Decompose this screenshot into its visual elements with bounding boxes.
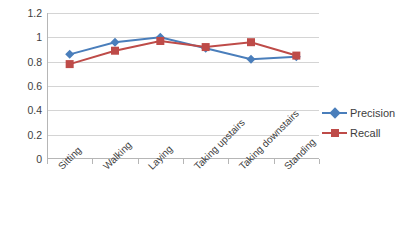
y-axis: 00.20.40.60.811.2 xyxy=(0,13,42,159)
line-chart: 00.20.40.60.811.2 SittingWalkingLayingTa… xyxy=(0,0,399,246)
series-line xyxy=(70,37,297,59)
data-point xyxy=(66,60,74,68)
legend-label: Recall xyxy=(350,127,381,139)
legend-item-precision[interactable]: Precision xyxy=(322,104,395,121)
legend-label: Precision xyxy=(350,107,395,119)
y-axis-tick-label: 1.2 xyxy=(27,7,42,19)
data-point xyxy=(156,37,164,45)
data-point xyxy=(65,50,74,59)
data-point xyxy=(247,38,255,46)
legend: PrecisionRecall xyxy=(322,104,395,144)
data-point xyxy=(292,52,300,60)
legend-swatch-icon xyxy=(322,127,347,139)
data-point xyxy=(202,43,210,51)
y-axis-tick-label: 0.6 xyxy=(27,80,42,92)
data-point xyxy=(111,47,119,55)
y-axis-tick-label: 0.8 xyxy=(27,56,42,68)
series-recall xyxy=(66,37,301,68)
data-point xyxy=(111,38,120,47)
y-axis-tick-label: 0.4 xyxy=(27,104,42,116)
legend-item-recall[interactable]: Recall xyxy=(322,124,395,141)
y-axis-tick-label: 0 xyxy=(36,153,42,165)
x-axis: SittingWalkingLayingTaking upstairsTakin… xyxy=(47,161,319,241)
x-axis-tick xyxy=(319,159,320,164)
y-axis-tick-label: 1 xyxy=(36,31,42,43)
series-precision xyxy=(65,33,301,64)
data-point xyxy=(247,55,256,64)
legend-swatch-icon xyxy=(322,107,347,119)
y-axis-tick-label: 0.2 xyxy=(27,129,42,141)
